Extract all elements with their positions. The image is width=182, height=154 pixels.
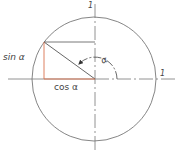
unit-circle-diagram: sin α cos α α 1 1 <box>0 0 182 154</box>
angle-arc <box>80 57 117 79</box>
diagram-canvas <box>0 0 182 154</box>
radius-line <box>44 42 95 79</box>
unit-label-right: 1 <box>160 69 165 78</box>
cosine-label: cos α <box>54 82 78 92</box>
sine-label: sin α <box>3 52 25 62</box>
unit-label-top: 1 <box>88 1 93 10</box>
